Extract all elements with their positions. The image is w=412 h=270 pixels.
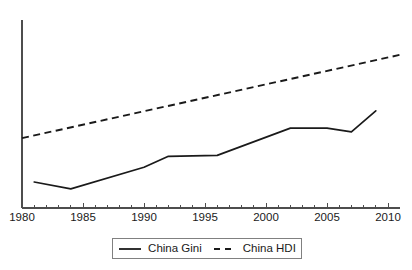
legend-swatch-solid-icon: [118, 244, 142, 254]
legend-label-china-hdi: China HDI: [243, 243, 296, 255]
x-axis-tick-label: 1995: [192, 211, 218, 223]
chart-axes: [22, 20, 400, 208]
x-axis-tick-label: 2000: [253, 211, 279, 223]
x-axis-tick-labels: 1980198519901995200020052010: [9, 211, 401, 223]
series-line-china-hdi: [22, 55, 400, 138]
x-axis-tick-label: 1990: [131, 211, 157, 223]
x-axis-tick-label: 1985: [70, 211, 96, 223]
chart-series-group: [22, 55, 400, 189]
legend-label-china-gini: China Gini: [148, 243, 202, 255]
x-axis-major-ticks: [22, 203, 388, 208]
chart-figure: 1980198519901995200020052010 China Gini …: [0, 0, 412, 270]
legend-swatch-dashed-icon: [213, 244, 237, 254]
legend-entry-china-gini: China Gini: [118, 243, 202, 255]
x-axis-tick-label: 2005: [314, 211, 340, 223]
line-chart-plot: 1980198519901995200020052010: [0, 0, 412, 270]
x-axis-tick-label: 1980: [9, 211, 35, 223]
legend-entry-china-hdi: China HDI: [213, 243, 296, 255]
series-line-china-gini: [34, 111, 376, 189]
x-axis-tick-label: 2010: [375, 211, 401, 223]
chart-legend: China Gini China HDI: [112, 238, 302, 259]
